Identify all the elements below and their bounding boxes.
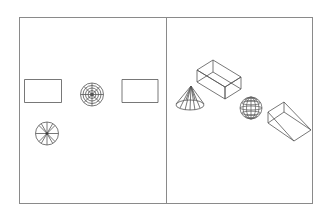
box-isometric[interactable]: [197, 60, 241, 99]
box-top-view[interactable]: [25, 80, 62, 103]
top-view-viewport[interactable]: [25, 80, 159, 146]
wedge-top-view[interactable]: [122, 80, 158, 103]
sphere-isometric[interactable]: [240, 97, 262, 119]
wedge-isometric[interactable]: [268, 102, 311, 141]
cone-isometric[interactable]: [176, 86, 204, 110]
cone-top-view[interactable]: [36, 122, 59, 145]
drawing-canvas: [0, 0, 325, 216]
isometric-viewport[interactable]: [176, 60, 311, 141]
sphere-top-view[interactable]: [81, 83, 104, 106]
